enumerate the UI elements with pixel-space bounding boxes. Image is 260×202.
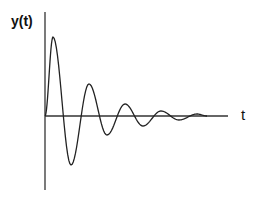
y-axis-label: y(t) bbox=[11, 14, 33, 28]
t-axis-label: t bbox=[241, 107, 245, 122]
damped-oscillation-plot bbox=[0, 0, 260, 202]
response-curve bbox=[45, 37, 207, 165]
